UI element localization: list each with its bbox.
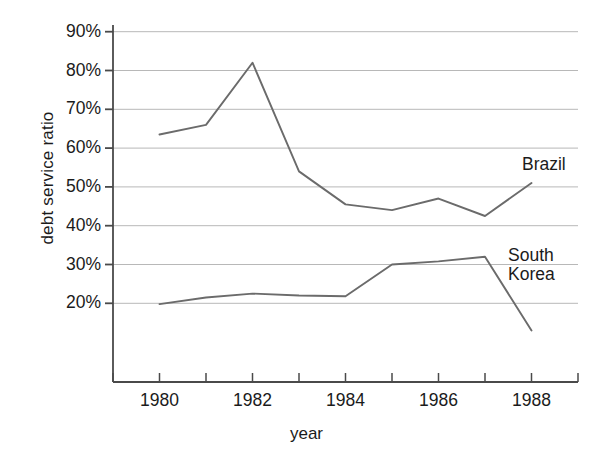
y-tick-label-90: 90% [31, 23, 101, 41]
x-tick-label-1980: 1980 [120, 392, 200, 410]
series-label-brazil: Brazil [522, 155, 566, 175]
x-tick-label-1986: 1986 [399, 392, 479, 410]
y-tick-label-20: 20% [31, 294, 101, 312]
x-axis-title: year [0, 424, 613, 444]
y-tick-label-70: 70% [31, 100, 101, 118]
y-tick-label-50: 50% [31, 178, 101, 196]
y-tick-label-60: 60% [31, 139, 101, 157]
y-tick-label-80: 80% [31, 62, 101, 80]
x-tick-label-1988: 1988 [492, 392, 572, 410]
tick-marks [105, 32, 578, 382]
x-tick-label-1982: 1982 [213, 392, 293, 410]
series-lines [160, 63, 532, 331]
series-line-brazil [160, 63, 532, 216]
y-tick-label-40: 40% [31, 217, 101, 235]
x-tick-label-1984: 1984 [306, 392, 386, 410]
y-tick-label-30: 30% [31, 256, 101, 274]
series-line-south-korea [160, 257, 532, 331]
series-label-south-korea: South Korea [508, 246, 555, 285]
chart-container: debt service ratio year 20%30%40%50%60%7… [0, 0, 613, 456]
